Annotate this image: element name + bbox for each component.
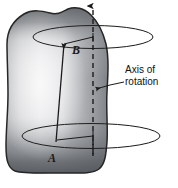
axis-of-rotation-label-line2: rotation <box>125 76 158 87</box>
figure-root: B A Axis of rotation <box>0 0 178 188</box>
point-a-label: A <box>47 151 56 165</box>
point-b-label: B <box>71 43 80 57</box>
rotation-diagram-svg: B A Axis of rotation <box>0 0 178 188</box>
axis-of-rotation-label-line1: Axis of <box>125 64 155 75</box>
